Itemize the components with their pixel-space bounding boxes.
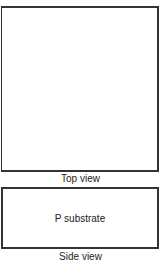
side-view-caption: Side view — [0, 251, 161, 263]
p-substrate-label: P substrate — [3, 213, 157, 225]
top-view-caption: Top view — [0, 173, 161, 185]
top-view-outline — [1, 6, 159, 172]
side-view-outline: P substrate — [1, 187, 159, 249]
